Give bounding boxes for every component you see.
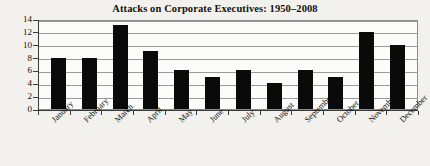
y-tick-mark [33,58,38,59]
y-tick-mark [33,97,38,98]
bar [359,32,374,109]
chart-title: Attacks on Corporate Executives: 1950–20… [0,3,430,14]
y-tick-label-wrap: 4 [0,84,32,85]
x-tick-mark [70,111,71,115]
plot-area [38,20,418,110]
x-tick-mark [260,111,261,115]
bar [174,70,189,109]
bar [328,77,343,109]
x-tick-mark [355,111,356,115]
plot-wrapper [38,20,418,110]
x-tick-mark [101,111,102,115]
y-tick-label-wrap: 0 [0,110,32,111]
y-tick-mark [33,20,38,21]
x-tick-mark [165,111,166,115]
x-tick-mark [196,111,197,115]
y-axis-line [38,20,39,110]
y-tick-mark [33,32,38,33]
x-tick-mark [418,111,419,115]
y-tick-mark [33,45,38,46]
y-tick-label: 0 [4,105,32,114]
x-tick-mark [386,111,387,115]
y-tick-label: 8 [4,54,32,63]
x-tick-mark [133,111,134,115]
x-tick-mark [228,111,229,115]
y-tick-label-wrap: 8 [0,59,32,60]
x-tick-mark [291,111,292,115]
y-tick-mark [33,71,38,72]
y-tick-label: 6 [4,66,32,75]
bar [82,58,97,109]
y-tick-label-wrap: 12 [0,33,32,34]
bar [205,77,220,109]
y-tick-label-wrap: 6 [0,71,32,72]
y-tick-label-wrap: 2 [0,97,32,98]
x-tick-mark [38,111,39,115]
y-tick-label-wrap: 14 [0,20,32,21]
bar-series [39,21,417,109]
y-tick-label: 12 [4,28,32,37]
bar-chart-figure: Attacks on Corporate Executives: 1950–20… [0,0,430,166]
y-tick-label: 10 [4,41,32,50]
y-tick-label: 2 [4,92,32,101]
bar [267,83,282,109]
bar [143,51,158,109]
y-tick-label: 4 [4,79,32,88]
bar [113,25,128,109]
x-tick-mark [323,111,324,115]
y-tick-label: 14 [4,15,32,24]
y-tick-mark [33,84,38,85]
bar [298,70,313,109]
y-tick-label-wrap: 10 [0,46,32,47]
bar [236,70,251,109]
